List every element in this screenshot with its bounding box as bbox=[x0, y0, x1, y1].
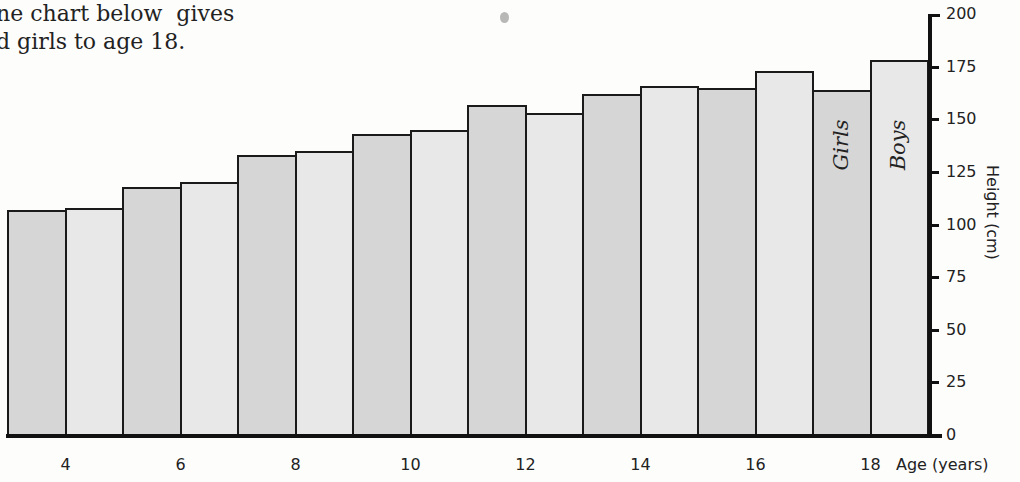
y-tick-mark bbox=[932, 276, 939, 279]
x-tick-label: 6 bbox=[175, 455, 185, 474]
y-axis-cap bbox=[928, 14, 940, 17]
x-tick-label: 8 bbox=[290, 455, 300, 474]
y-tick-mark bbox=[932, 66, 939, 69]
y-tick-mark bbox=[932, 224, 939, 227]
bar-girls-age-12 bbox=[467, 105, 527, 435]
bar-girls-age-14 bbox=[582, 94, 642, 435]
bar-girls-age-4 bbox=[7, 210, 67, 435]
y-tick-mark bbox=[932, 171, 939, 174]
y-tick-label: 150 bbox=[946, 111, 977, 127]
y-axis-title: Height (cm) bbox=[983, 165, 1002, 260]
y-tick-label: 175 bbox=[946, 59, 977, 75]
x-tick-label: 14 bbox=[630, 455, 650, 474]
bar-girls-age-10 bbox=[352, 134, 412, 435]
bar-boys-age-6 bbox=[180, 182, 240, 435]
bar-boys-age-4 bbox=[65, 208, 125, 435]
y-tick-label: 25 bbox=[946, 374, 966, 390]
bar-boys-age-12 bbox=[525, 113, 585, 435]
y-tick-mark bbox=[932, 329, 939, 332]
y-tick-label: 0 bbox=[946, 427, 956, 443]
bar-girls-age-16 bbox=[697, 88, 757, 435]
y-tick-label: 50 bbox=[946, 322, 966, 338]
x-tick-label: 16 bbox=[745, 455, 765, 474]
series-label-boys: Boys bbox=[886, 115, 910, 175]
y-tick-label: 200 bbox=[946, 6, 977, 22]
y-tick-label: 100 bbox=[946, 217, 977, 233]
x-tick-label: 10 bbox=[400, 455, 420, 474]
x-axis-line bbox=[6, 434, 942, 438]
bar-girls-age-6 bbox=[122, 187, 182, 435]
y-tick-label: 125 bbox=[946, 164, 977, 180]
series-label-girls: Girls bbox=[829, 115, 853, 175]
y-tick-mark bbox=[932, 118, 939, 121]
bar-girls-age-8 bbox=[237, 155, 297, 435]
x-tick-label: 12 bbox=[515, 455, 535, 474]
x-tick-label: 4 bbox=[60, 455, 70, 474]
bar-boys-age-16 bbox=[755, 71, 815, 435]
y-tick-label: 75 bbox=[946, 269, 966, 285]
bar-boys-age-10 bbox=[410, 130, 470, 435]
bar-boys-age-8 bbox=[295, 151, 355, 435]
y-tick-mark bbox=[932, 381, 939, 384]
x-tick-label: 18 bbox=[860, 455, 880, 474]
x-axis-title: Age (years) bbox=[896, 455, 989, 474]
bar-boys-age-14 bbox=[640, 86, 700, 435]
height-bar-chart: 0255075100125150175200 4681012141618 Age… bbox=[0, 0, 1020, 482]
